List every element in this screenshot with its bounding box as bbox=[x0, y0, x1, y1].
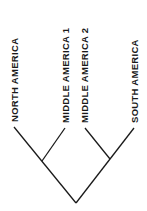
branch-right-node-to-middle-america-2 bbox=[85, 128, 110, 159]
leaf-label-south-america: SOUTH AMERICA bbox=[130, 39, 140, 123]
leaf-label-north-america: NORTH AMERICA bbox=[10, 38, 20, 122]
branch-left-node-to-middle-america-1 bbox=[42, 128, 65, 161]
cladogram: NORTH AMERICA MIDDLE AMERICA 1 MIDDLE AM… bbox=[0, 0, 147, 211]
leaf-label-middle-america-1: MIDDLE AMERICA 1 bbox=[61, 28, 71, 123]
branch-root-to-south-america bbox=[76, 128, 134, 203]
branch-root-to-north-america bbox=[14, 127, 76, 203]
cladogram-lines bbox=[0, 0, 147, 211]
leaf-label-middle-america-2: MIDDLE AMERICA 2 bbox=[80, 28, 90, 123]
